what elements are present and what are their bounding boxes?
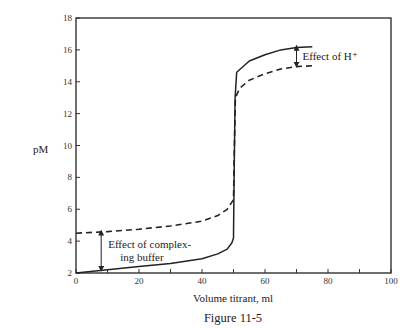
y-axis-ticks: 24681012141618 (63, 13, 80, 278)
y-tick-label: 2 (68, 268, 73, 278)
dashed-curve (76, 66, 312, 233)
y-tick-label: 4 (68, 236, 73, 246)
y-tick-label: 8 (68, 172, 73, 182)
y-axis-title: pM (33, 143, 49, 155)
y-tick-label: 12 (63, 109, 72, 119)
x-axis-ticks: 020406080100 (74, 269, 399, 286)
y-tick-label: 16 (63, 45, 73, 55)
y-tick-label: 14 (63, 77, 73, 87)
x-tick-label: 60 (261, 276, 271, 286)
x-tick-label: 100 (384, 276, 398, 286)
effect-of-h-label: Effect of H⁺ (303, 50, 358, 62)
y-tick-label: 18 (63, 13, 73, 23)
x-axis-title: Volume titrant, ml (193, 292, 273, 304)
titration-chart: 24681012141618 020406080100 Effect of H⁺… (0, 0, 416, 328)
x-tick-label: 0 (74, 276, 79, 286)
figure-caption: Figure 11-5 (204, 311, 262, 325)
annotations: Effect of H⁺Effect of complex-ing buffer (101, 48, 358, 269)
effect-of-complexing-buffer-label: ing buffer (120, 251, 164, 263)
x-tick-label: 20 (135, 276, 145, 286)
y-tick-label: 10 (63, 141, 73, 151)
x-tick-label: 80 (324, 276, 334, 286)
effect-of-complexing-buffer-label: Effect of complex- (108, 238, 191, 250)
x-tick-label: 40 (198, 276, 208, 286)
y-tick-label: 6 (68, 204, 73, 214)
